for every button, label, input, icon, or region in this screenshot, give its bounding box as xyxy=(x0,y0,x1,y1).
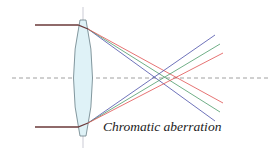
ray-top-blue xyxy=(88,29,215,121)
ray-bottom-green xyxy=(88,44,220,123)
ray-top-red xyxy=(88,29,223,103)
lens xyxy=(74,20,93,136)
ray-top-green xyxy=(88,29,220,112)
ray-bottom-blue xyxy=(88,35,215,123)
diagram-caption: Chromatic aberration xyxy=(103,119,221,135)
